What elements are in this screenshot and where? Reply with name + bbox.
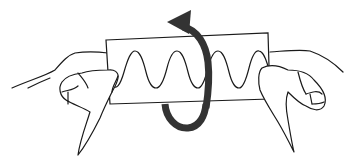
rotation-arrow-back: [165, 104, 206, 128]
arrow-head-icon: [167, 10, 191, 34]
rotation-diagram: [0, 0, 351, 165]
illustration-canvas: Two hands hold a rectangular strip of pa…: [0, 0, 351, 165]
right-hand-front: [259, 66, 326, 152]
left-hand-front: [60, 70, 118, 155]
paper-strip: [106, 33, 270, 104]
